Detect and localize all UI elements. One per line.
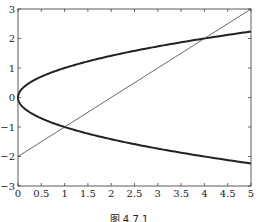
y-tick-label: 3 bbox=[9, 4, 15, 15]
y-tick-label: −1 bbox=[0, 122, 15, 133]
x-tick-label: 2 bbox=[108, 188, 114, 199]
line-curve bbox=[18, 9, 251, 157]
x-tick-label: 3 bbox=[155, 188, 161, 199]
x-tick-label: 1.5 bbox=[80, 188, 96, 199]
x-tick-label: 2.5 bbox=[127, 188, 143, 199]
x-tick-label: 1 bbox=[61, 188, 67, 199]
x-tick-label: 5 bbox=[248, 188, 254, 199]
plot-frame bbox=[18, 9, 251, 186]
y-tick-label: 0 bbox=[9, 92, 15, 103]
parabola-curve bbox=[18, 32, 251, 164]
y-tick-label: −3 bbox=[0, 181, 15, 192]
x-tick-label: 0 bbox=[15, 188, 21, 199]
x-tick-label: 0.5 bbox=[33, 188, 49, 199]
x-tick-label: 4.5 bbox=[220, 188, 236, 199]
figure-caption: 图 4.7.1 bbox=[0, 211, 258, 222]
y-tick-label: −2 bbox=[0, 151, 15, 162]
x-tick-label: 4 bbox=[201, 188, 207, 199]
plot-curves bbox=[18, 9, 251, 163]
y-tick-label: 1 bbox=[9, 63, 15, 74]
axis-ticks: 00.511.522.533.544.553210−1−2−3 bbox=[0, 4, 254, 200]
x-tick-label: 3.5 bbox=[173, 188, 189, 199]
chart: 00.511.522.533.544.553210−1−2−3 bbox=[0, 0, 258, 222]
y-tick-label: 2 bbox=[9, 33, 15, 44]
